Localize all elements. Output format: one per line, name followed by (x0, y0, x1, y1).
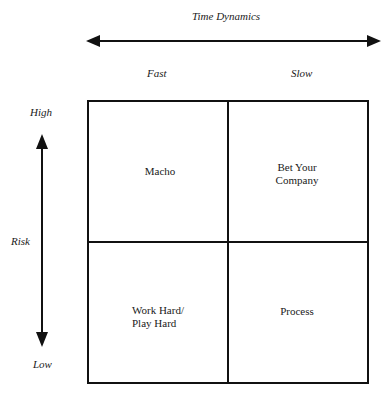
arrow-right-icon (367, 35, 381, 47)
quadrant-macho: Macho (120, 165, 200, 178)
arrow-up-icon (36, 134, 48, 149)
quadrant-bet-your-company: Bet Your Company (257, 161, 337, 187)
diagram-canvas (0, 0, 391, 401)
risk-arrow (36, 134, 48, 347)
time-dynamics-arrow (86, 35, 381, 47)
quadrant-work-label-line1: Work Hard/ (132, 304, 184, 317)
quadrant-bet-label-line1: Bet Your (257, 161, 337, 174)
quadrant-work-label-line2: Play Hard (132, 317, 184, 330)
arrow-down-icon (36, 332, 48, 347)
quadrant-work-hard-play-hard: Work Hard/ Play Hard (132, 304, 184, 330)
quadrant-process: Process (257, 305, 337, 318)
quadrant-grid (88, 101, 368, 383)
arrow-left-icon (86, 35, 100, 47)
quadrant-macho-label: Macho (145, 165, 176, 177)
quadrant-process-label: Process (280, 305, 314, 317)
quadrant-bet-label-line2: Company (257, 174, 337, 187)
